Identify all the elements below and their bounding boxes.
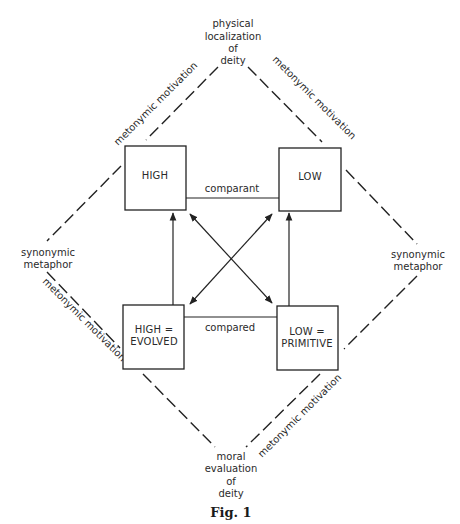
top-label-physical-localization: physical localization of deity <box>205 18 262 66</box>
diamond-edges <box>47 67 417 447</box>
svg-text:of: of <box>228 43 238 54</box>
svg-text:moral: moral <box>217 451 246 462</box>
svg-text:deity: deity <box>218 488 243 499</box>
svg-text:LOW: LOW <box>298 171 322 182</box>
svg-text:LOW =: LOW = <box>289 326 325 337</box>
edge-label-top-left: metonymic motivation <box>112 60 200 148</box>
edge-label-bottom-left: metonymic motivation <box>41 276 129 364</box>
svg-text:synonymic: synonymic <box>21 247 75 258</box>
svg-text:localization: localization <box>205 31 262 42</box>
box-high-evolved: HIGH = EVOLVED <box>123 305 184 369</box>
box-low: LOW <box>279 148 341 211</box>
svg-text:evaluation: evaluation <box>205 463 258 474</box>
edge-label-top-right: metonymic motivation <box>271 54 359 142</box>
edge-top-right-upper <box>248 67 322 142</box>
box-low-primitive: LOW = PRIMITIVE <box>277 306 338 370</box>
svg-text:of: of <box>226 476 236 487</box>
semiotic-square-diagram: physical localization of deity metonymic… <box>0 0 460 524</box>
edge-top-right-lower <box>346 170 417 244</box>
svg-text:PRIMITIVE: PRIMITIVE <box>281 338 333 349</box>
bottom-label-moral-evaluation: moral evaluation of deity <box>205 451 258 499</box>
edge-bottom-right-upper <box>344 276 417 349</box>
svg-text:physical: physical <box>213 18 254 29</box>
right-label-synonymic-metaphor: synonymic metaphor <box>391 249 445 272</box>
box-high: HIGH <box>125 146 186 210</box>
comparant-label: comparant <box>205 183 259 194</box>
svg-text:EVOLVED: EVOLVED <box>130 336 178 347</box>
svg-text:metaphor: metaphor <box>24 259 74 270</box>
svg-text:HIGH: HIGH <box>142 170 169 181</box>
figure-caption: Fig. 1 <box>210 505 251 520</box>
svg-text:synonymic: synonymic <box>391 249 445 260</box>
left-label-synonymic-metaphor: synonymic metaphor <box>21 247 75 270</box>
svg-text:metaphor: metaphor <box>394 261 444 272</box>
edge-bottom-left-lower <box>143 374 215 447</box>
svg-text:HIGH =: HIGH = <box>135 324 174 335</box>
compared-label: compared <box>205 322 255 333</box>
edge-top-left-lower <box>47 166 121 241</box>
edge-label-bottom-right: metonymic motivation <box>256 372 344 460</box>
svg-text:deity: deity <box>220 55 245 66</box>
